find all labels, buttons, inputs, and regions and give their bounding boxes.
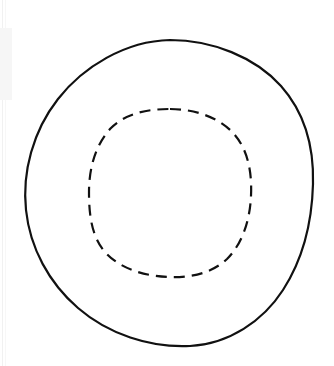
inner-dashed-circle (89, 109, 251, 277)
outer-solid-circle (25, 40, 313, 346)
figure-root: Concentric Circles Line Drawing (0, 0, 334, 366)
concentric-circles-drawing (0, 0, 334, 366)
